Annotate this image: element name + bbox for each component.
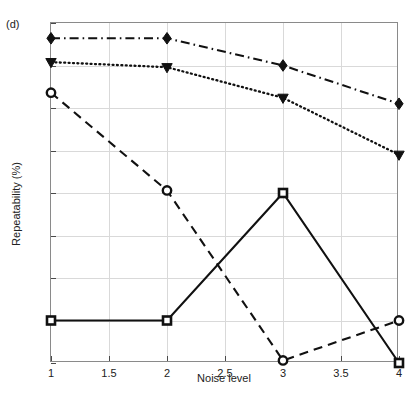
x-axis-title: Noise level [48,372,400,384]
data-point-square [47,317,55,325]
plot-area: 50556065707580859011.522.533.54 [50,22,398,362]
series-triangle-down-line [51,62,399,155]
y-tick-mark [51,363,56,364]
data-point-circle [395,316,403,324]
data-point-circle [47,89,55,97]
data-point-triangle-down [278,94,288,103]
data-point-circle [163,186,171,194]
series-circle [47,89,403,365]
data-point-diamond [163,33,171,45]
data-point-square [163,317,171,325]
data-point-diamond [47,33,55,45]
data-point-diamond [395,98,403,110]
series-diamond-line [51,38,399,103]
data-point-square [279,189,287,197]
data-point-diamond [279,60,287,72]
panel-label: (d) [6,18,19,30]
data-point-square [395,359,403,367]
series-square [47,189,403,367]
data-series-layer [51,23,399,363]
data-point-triangle-down [394,151,404,160]
y-axis-title: Repeatability (%) [10,144,22,264]
data-point-circle [279,356,287,364]
series-diamond [47,33,403,110]
figure-panel-d: (d) Repeatability (%) 505560657075808590… [0,0,408,395]
series-triangle-down [46,59,404,161]
